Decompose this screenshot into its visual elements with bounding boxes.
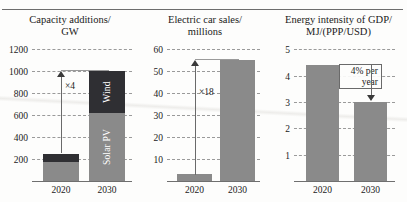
y-tick-label: 400 <box>14 133 28 143</box>
chart-title-line2: MJ/(PPP/USD) <box>270 26 407 38</box>
chart-panel-capacity-additions: Capacity additions/ GW 200 400 600 800 <box>0 12 140 202</box>
y-tick-label: 1000 <box>9 67 28 77</box>
x-tick-label-2020: 2020 <box>313 185 332 195</box>
y-tick-label: 50 <box>154 67 164 77</box>
annotation-cap-line <box>195 59 239 60</box>
bar-2030-car-sales[interactable] <box>220 60 255 181</box>
y-tick-label: 20 <box>154 133 164 143</box>
annotation-box-decline-rate: 4% per year <box>339 64 382 89</box>
x-tick-label-2020: 2020 <box>185 185 204 195</box>
y-tick-label: 800 <box>14 89 28 99</box>
x-tick-label-2030: 2030 <box>361 185 380 195</box>
y-tick-label: 200 <box>14 155 28 165</box>
bar-segment-label-wind: Wind <box>102 81 112 103</box>
chart-title-line1: Energy intensity of GDP/ <box>270 14 407 26</box>
gridline: 1200 <box>32 49 132 50</box>
chart-panel-energy-intensity: Energy intensity of GDP/ MJ/(PPP/USD) 1 … <box>270 12 407 202</box>
annotation-label-line1: 4% per <box>344 66 378 77</box>
x-tick-label-2030: 2030 <box>98 185 117 195</box>
chart-title-line1: Electric car sales/ <box>140 14 270 26</box>
gridline: 5 <box>294 49 395 50</box>
chart-panel-electric-car-sales: Electric car sales/ millions 10 20 30 40 <box>140 12 270 202</box>
y-tick-label: 1200 <box>9 45 28 55</box>
annotation-arrow-shaft <box>61 76 62 153</box>
plot-area-electric-car-sales: 10 20 30 40 50 60 2020 <box>167 40 260 182</box>
y-tick-label: 40 <box>154 89 164 99</box>
y-tick-label: 10 <box>154 155 164 165</box>
x-tick-label-2020: 2020 <box>52 185 71 195</box>
x-tick-label-2030: 2030 <box>228 185 247 195</box>
bar-segment-wind-2030[interactable]: Wind <box>89 71 125 113</box>
chart-title-electric-car-sales: Electric car sales/ millions <box>140 14 270 37</box>
y-tick-label: 4 <box>285 72 290 82</box>
annotation-label-line2: year <box>344 77 378 88</box>
y-tick-label: 5 <box>285 45 290 55</box>
annotation-label-multiplier: ×4 <box>65 81 75 91</box>
chart-title-line2: GW <box>0 26 140 38</box>
plot-area-capacity-additions: 200 400 600 800 1000 1200 <box>32 40 132 182</box>
plot-area-energy-intensity: 1 2 3 4 5 2020 2030 <box>294 40 395 182</box>
bar-segment-wind-2020[interactable] <box>43 154 79 163</box>
bar-2030-energy-intensity[interactable] <box>354 102 387 181</box>
chart-title-energy-intensity: Energy intensity of GDP/ MJ/(PPP/USD) <box>270 14 407 37</box>
bar-2030-capacity[interactable]: Wind Solar PV <box>89 71 125 181</box>
annotation-arrow-head-up-icon <box>57 71 65 77</box>
bar-segment-label-solar-pv: Solar PV <box>102 129 112 165</box>
chart-title-line2: millions <box>140 26 270 38</box>
annotation-arrow-shaft <box>195 65 196 175</box>
chart-title-line1: Capacity additions/ <box>0 14 140 26</box>
annotation-label-multiplier: ×18 <box>199 87 214 97</box>
figure-canvas: Capacity additions/ GW 200 400 600 800 <box>0 0 407 202</box>
y-tick-label: 30 <box>154 111 164 121</box>
y-tick-label: 1 <box>285 151 290 161</box>
bar-segment-solar-pv-2020[interactable] <box>43 162 79 181</box>
annotation-arrow-shaft <box>371 64 372 96</box>
bar-2020-energy-intensity[interactable] <box>306 65 339 181</box>
y-tick-label: 60 <box>154 45 164 55</box>
chart-row: Capacity additions/ GW 200 400 600 800 <box>0 12 407 202</box>
annotation-arrow-head-down-icon <box>367 95 375 101</box>
annotation-arrow-head-up-icon <box>191 60 199 66</box>
cut-off-header-text <box>0 0 407 7</box>
top-horizontal-rule <box>2 9 403 10</box>
gridline: 60 <box>167 49 260 50</box>
y-tick-label: 600 <box>14 111 28 121</box>
y-tick-label: 3 <box>285 98 290 108</box>
bar-2020-car-sales[interactable] <box>177 174 212 181</box>
annotation-cap-line <box>61 70 109 71</box>
chart-title-capacity-additions: Capacity additions/ GW <box>0 14 140 37</box>
y-tick-label: 2 <box>285 124 290 134</box>
bar-2020-capacity[interactable] <box>43 154 79 182</box>
bar-segment-solar-pv-2030[interactable]: Solar PV <box>89 113 125 181</box>
